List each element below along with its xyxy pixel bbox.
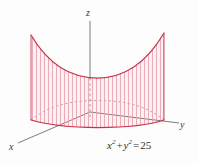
surface-diagram: x y z x2+y2=25	[0, 0, 198, 165]
equation-plus-sign: +	[115, 139, 123, 151]
equation-right-side: 25	[140, 139, 151, 151]
equation-equals-sign: =	[132, 139, 140, 151]
x-axis-label: x	[9, 142, 13, 152]
equation-annotation: x2+y2=25	[107, 140, 151, 151]
diagram-canvas	[0, 0, 198, 165]
z-axis-label: z	[86, 8, 90, 18]
y-axis-label: y	[180, 120, 184, 130]
